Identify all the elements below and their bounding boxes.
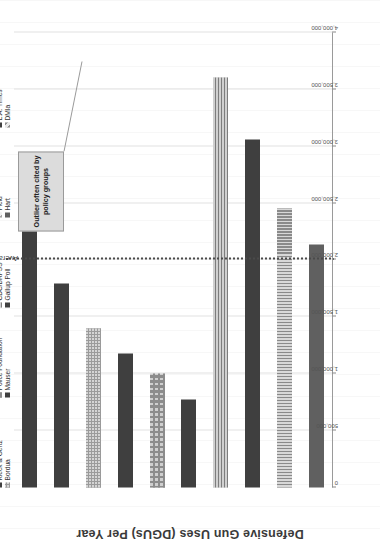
axis-tick [332,31,336,32]
bar-chart: Defensive Gun Uses (DGUs) Per Year Avera… [0,0,380,549]
axis-tick [332,429,336,430]
average-reference-line [6,258,334,260]
axis-tick-label: 1,000,000 [311,365,338,371]
legend-item[interactable]: L.A. Times [0,89,3,127]
bar-field[interactable] [213,78,228,488]
axis-tick-label: 4,000,000 [311,24,338,30]
outlier-callout: Outlier often cited by policy groups [18,151,64,231]
legend-label: L.A. Times [0,89,3,120]
axis-tick-label: 3,500,000 [311,81,338,87]
legend-label: Kleck & Gertz [0,440,3,480]
legend-item[interactable]: Gallup Poll [4,268,11,307]
bar-bordua[interactable] [54,283,69,487]
axis-tick [332,145,336,146]
axis-tick-label: 2,500,000 [311,195,338,201]
legend-swatch-icon [0,392,2,397]
outlier-callout-text: Outlier often cited by policy groups [32,154,50,228]
bar-cdc-brfss[interactable] [150,373,165,487]
axis-tick [332,486,336,487]
bar-l-a-times[interactable] [277,208,292,487]
legend-item[interactable]: DMIa [4,104,11,127]
axis-tick [332,315,336,316]
bar-kleck-gertz[interactable] [22,203,37,487]
legend-item[interactable]: CDC/BRFSS [0,262,3,307]
legend-label: Gallup Poll [4,268,11,300]
legend-label: CDC/BRFSS [0,262,3,300]
legend-swatch-icon [5,212,10,217]
legend-swatch-icon [0,122,2,127]
rotated-chart-container: Defensive Gun Uses (DGUs) Per Year Avera… [0,0,380,549]
plot-area: Average of non-outlier studies [14,32,332,487]
legend-swatch-icon [5,392,10,397]
axis-tick [332,88,336,89]
legend-swatch-icon [5,482,10,487]
chart-legend: Kleck & GertzBorduaPolice FoundationMaus… [0,32,12,487]
legend-item[interactable]: Bordua [4,459,11,487]
legend-label: Police Foundation [0,337,3,390]
bar-police-foundation[interactable] [86,328,101,487]
legend-swatch-icon [0,482,2,487]
axis-title-label: Defensive Gun Uses (DGUs) Per Year [76,526,304,540]
legend-item[interactable]: Mauser [4,368,11,397]
legend-swatch-icon [0,212,2,217]
legend-label: DMIa [4,104,11,120]
legend-label: Mauser [4,368,11,390]
axis-tick [332,202,336,203]
bar-hart[interactable] [245,139,260,487]
value-axis-ticks: 0500,0001,000,0001,500,0002,000,0002,500… [332,32,378,487]
legend-label: Field [0,196,3,210]
bar-gallup-poll[interactable] [181,399,196,487]
axis-tick-label: 500,000 [316,422,338,428]
legend-item[interactable]: Kleck & Gertz [0,440,3,487]
axis-tick [332,259,336,260]
legend-item[interactable]: Hart [4,198,11,217]
gridline [14,145,332,146]
axis-tick-label: 1,500,000 [311,308,338,314]
bar-mauser[interactable] [118,353,133,487]
legend-label: Hart [4,198,11,210]
legend-swatch-icon [0,302,2,307]
gridline [14,31,332,32]
axis-tick-label: 3,000,000 [311,138,338,144]
legend-swatch-icon [5,122,10,127]
axis-title: Defensive Gun Uses (DGUs) Per Year [0,523,380,543]
legend-label: Bordua [4,459,11,480]
legend-item[interactable]: Field [0,196,3,217]
legend-swatch-icon [5,302,10,307]
axis-tick [332,372,336,373]
axis-tick-label: 2,000,000 [311,252,338,258]
legend-item[interactable]: Police Foundation [0,337,3,397]
axis-tick-label: 0 [335,479,338,485]
gridline [14,88,332,89]
